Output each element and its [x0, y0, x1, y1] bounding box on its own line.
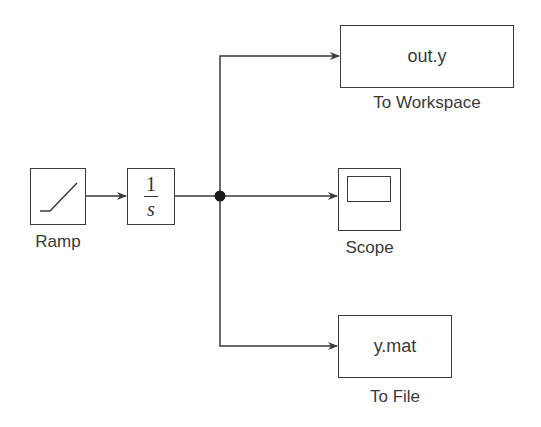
to-workspace-block[interactable]: out.y — [340, 25, 514, 88]
branch-junction — [215, 191, 226, 202]
wire-to-file[interactable] — [220, 196, 337, 346]
wire-to-workspace[interactable] — [220, 56, 339, 196]
to-file-block[interactable]: y.mat — [338, 315, 452, 378]
ramp-label: Ramp — [20, 232, 96, 252]
scope-block[interactable] — [338, 168, 401, 231]
numerator: 1 — [144, 174, 158, 197]
ramp-block[interactable] — [30, 168, 86, 225]
to-workspace-label: To Workspace — [340, 93, 514, 113]
denominator: s — [147, 197, 155, 219]
transfer-function: 1 s — [144, 174, 158, 219]
scope-label: Scope — [330, 238, 409, 258]
workspace-variable: out.y — [407, 46, 446, 67]
integrator-block[interactable]: 1 s — [127, 168, 175, 225]
scope-icon — [347, 176, 391, 202]
ramp-icon — [30, 168, 86, 225]
file-name: y.mat — [374, 336, 417, 357]
to-file-label: To File — [338, 387, 452, 407]
